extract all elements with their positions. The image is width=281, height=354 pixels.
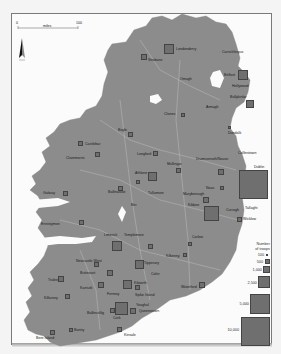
troop-symbol-strabane <box>141 54 147 60</box>
troop-symbol-tipperary <box>135 260 144 269</box>
troop-symbol-longford <box>153 151 158 156</box>
place-label: Buttevant <box>80 271 95 275</box>
troop-symbol-waterford <box>199 282 205 288</box>
place-label: Bantry <box>74 328 84 332</box>
legend-symbol-2500 <box>258 276 270 288</box>
troop-symbol-curragh <box>204 206 219 221</box>
place-label: Tralee <box>48 278 58 282</box>
scale-end: 100 <box>76 21 82 25</box>
troop-symbol-templemore <box>148 244 153 249</box>
troop-symbol-kinsale <box>117 327 122 332</box>
place-label: Galway <box>43 191 55 195</box>
troop-symbol-queenstown <box>130 308 136 314</box>
place-label: Youghal <box>136 303 149 307</box>
legend-symbol-5000 <box>250 294 270 314</box>
place-label: Kanturk <box>80 286 92 290</box>
place-label: Tallaght <box>245 206 257 210</box>
place-label: Kilkenny <box>166 254 180 258</box>
troop-symbol-limerick <box>112 241 122 251</box>
place-label: Dundalk <box>228 131 241 135</box>
legend-label: 5,000 <box>228 302 249 306</box>
legend-symbol-100 <box>266 254 268 256</box>
place-label: Queenstown <box>139 309 159 313</box>
troop-symbol-dublin <box>239 170 268 199</box>
place-label: Belfast <box>224 73 235 77</box>
troop-symbol-ballinasloe <box>136 180 140 184</box>
place-label: Ballinasloe <box>108 190 125 194</box>
place-label: Spike Island <box>135 293 155 297</box>
troop-symbol-ballincollig <box>110 308 115 313</box>
place-label: Ballykinlar <box>230 95 246 99</box>
troop-symbol-tralee <box>58 276 64 282</box>
place-label: Carrickfergus <box>222 50 243 54</box>
troop-symbol-kilworth <box>135 285 140 290</box>
troop-symbol-clones <box>181 113 185 117</box>
place-label: Tullamore <box>148 191 164 195</box>
place-label: Athlone <box>135 171 147 175</box>
place-label: Ballincollig <box>87 311 104 315</box>
place-label: Drumconrath/Navan <box>196 157 228 161</box>
troop-symbol-mullingar <box>176 168 181 173</box>
place-label: Ennistymon <box>41 222 60 226</box>
legend-label: 2,500 <box>234 281 257 285</box>
place-label: Kildare <box>188 203 199 207</box>
place-label: Collinstown <box>238 151 256 155</box>
place-label: Cahir <box>151 272 160 276</box>
troop-symbol-claremorris <box>95 152 100 157</box>
troop-symbol-bantry <box>69 328 73 332</box>
place-label: Strabane <box>148 58 163 62</box>
place-label: Kinsale <box>124 333 136 337</box>
place-label: Longford <box>137 152 151 156</box>
legend-label: 1,000 <box>236 268 262 272</box>
legend-symbol-500 <box>265 259 270 264</box>
scale-unit: miles <box>43 24 51 28</box>
troop-symbol-buttevant <box>107 270 113 276</box>
place-label: Waterford <box>181 285 197 289</box>
troop-symbol-navan <box>218 169 224 175</box>
place-label: Tipperary <box>144 261 159 265</box>
troop-symbol-killarney <box>65 294 70 299</box>
place-label: Newcastle West <box>76 259 102 263</box>
place-label: Maryborough <box>183 192 204 196</box>
north-arrow-icon <box>19 38 25 60</box>
troop-symbol-boyle <box>128 132 133 137</box>
troop-symbol-kanturk <box>98 282 104 288</box>
place-label: Castlebar <box>85 142 100 146</box>
place-label: Londonderry <box>176 47 196 51</box>
troop-symbol-naas <box>220 186 224 190</box>
troop-symbol-ballykinlar <box>246 100 254 108</box>
legend-title: of troops <box>238 247 270 251</box>
troop-symbol-cork <box>115 302 128 315</box>
troop-symbol-kildare <box>203 197 209 203</box>
place-label: Kilworth <box>134 281 147 285</box>
place-label: Curragh <box>226 208 239 212</box>
troop-symbol-galway <box>63 191 68 196</box>
place-label: Bere Island <box>36 336 54 340</box>
place-label: Mullingar <box>167 162 182 166</box>
troop-symbol-wicklow <box>237 217 242 222</box>
troop-symbol-londonderry <box>164 44 174 54</box>
place-label: Armagh <box>206 105 219 109</box>
place-label: Carlow <box>192 235 203 239</box>
place-label: Hollywood <box>232 84 249 88</box>
legend-label: 10,000 <box>216 328 239 332</box>
place-label: Boyle <box>118 128 127 132</box>
place-label: Naas <box>206 186 214 190</box>
troop-symbol-fermoy <box>123 280 132 289</box>
place-label: Clones <box>164 112 175 116</box>
troop-symbol-castlebar <box>78 141 83 146</box>
place-label: Birr <box>131 203 137 207</box>
place-label: Claremorris <box>66 156 85 160</box>
place-label: Limerick <box>104 233 117 237</box>
place-label: Killarney <box>44 296 58 300</box>
legend-label: 500 <box>240 260 263 264</box>
place-label: Cork <box>113 316 121 320</box>
legend-label: 100 <box>240 253 264 257</box>
troop-symbol-kilkenny <box>183 253 187 257</box>
place-label: Wicklow <box>243 217 256 221</box>
legend-symbol-1000 <box>263 266 270 273</box>
scale-start: 0 <box>16 21 18 25</box>
troop-symbol-ennistymon <box>79 220 84 225</box>
place-label: Fermoy <box>107 292 119 296</box>
troop-symbol-bere-island <box>50 330 55 335</box>
